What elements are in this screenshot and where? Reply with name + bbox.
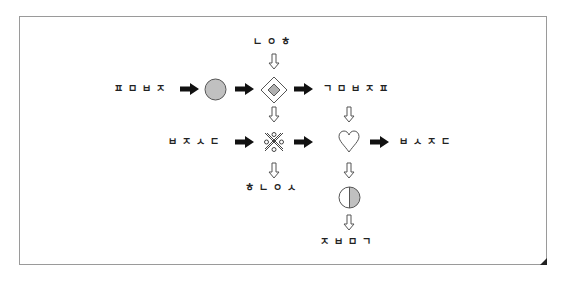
diamond-icon bbox=[260, 76, 288, 104]
label-top: ㄴㅇㅎ bbox=[253, 36, 295, 48]
label-row1-left: ㅍㅁㅂㅈ bbox=[114, 83, 170, 95]
gray-circle-icon bbox=[204, 78, 227, 101]
half-circle-icon bbox=[338, 186, 361, 209]
hollow-down-arrow-icon bbox=[268, 106, 280, 123]
hollow-down-arrow-icon bbox=[343, 162, 355, 179]
solid-right-arrow-icon bbox=[180, 83, 199, 95]
hollow-down-arrow-icon bbox=[343, 214, 355, 231]
solid-right-arrow-icon bbox=[235, 136, 254, 148]
solid-right-arrow-icon bbox=[294, 136, 313, 148]
solid-right-arrow-icon bbox=[294, 83, 313, 95]
hollow-down-arrow-icon bbox=[343, 106, 355, 123]
label-row1-right: ㄱㅁㅂㅈㅍ bbox=[323, 83, 393, 95]
label-bottom-left: ㅎㄴㅇㅅ bbox=[245, 182, 301, 194]
solid-right-arrow-icon bbox=[370, 136, 389, 148]
label-bottom-right: ㅈㅂㅁㄱ bbox=[320, 236, 376, 248]
hollow-down-arrow-icon bbox=[268, 53, 280, 70]
hollow-down-arrow-icon bbox=[268, 162, 280, 179]
label-row2-right: ㅂㅅㅈㄷ bbox=[399, 136, 455, 148]
crossed-pattern-icon bbox=[263, 131, 285, 153]
solid-right-arrow-icon bbox=[235, 83, 254, 95]
folded-corner-icon bbox=[540, 258, 547, 265]
label-row2-left: ㅂㅈㅅㄷ bbox=[168, 136, 224, 148]
heart-icon bbox=[338, 130, 360, 154]
